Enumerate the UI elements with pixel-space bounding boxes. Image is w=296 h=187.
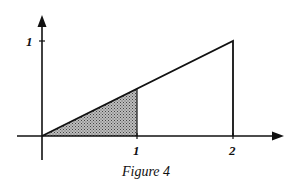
x-axis-arrow-icon [272,132,284,141]
figure-canvas: 1 1 2 Figure 4 [0,0,296,187]
y-axis-arrow-icon [38,15,47,27]
x-tick-label-1: 1 [133,143,140,158]
y-tick-label-1: 1 [26,34,33,49]
x-tick-label-2: 2 [228,143,236,158]
figure-caption: Figure 4 [121,164,170,179]
